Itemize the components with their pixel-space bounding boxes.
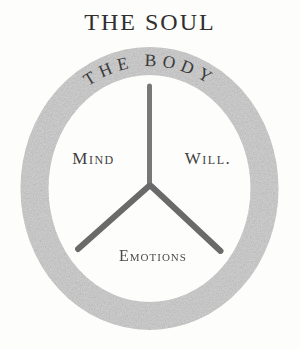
section-label-will: Will.	[185, 149, 231, 168]
spoke-left	[78, 186, 149, 249]
diagram-page: THE SOUL THE BODY Mind Will. Emotions	[0, 0, 300, 349]
section-label-emotions: Emotions	[119, 247, 187, 264]
soul-body-diagram: THE SOUL THE BODY Mind Will. Emotions	[0, 0, 300, 349]
divider-spokes	[78, 86, 221, 251]
section-label-mind: Mind	[72, 149, 114, 168]
spoke-right	[151, 186, 221, 251]
page-title: THE SOUL	[84, 9, 215, 35]
